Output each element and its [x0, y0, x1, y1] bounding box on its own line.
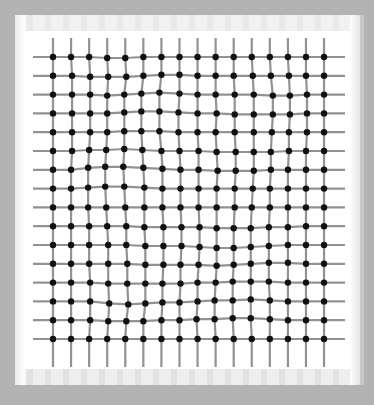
- grid-node: [303, 317, 309, 323]
- grid-node: [268, 149, 274, 155]
- grid-node: [251, 129, 257, 135]
- grid-node: [50, 148, 56, 154]
- grid-node: [266, 260, 272, 266]
- grid-node: [213, 149, 219, 155]
- grid-node: [142, 243, 148, 249]
- grid-node: [304, 129, 310, 135]
- grid-node: [140, 318, 146, 324]
- grid-node: [321, 54, 327, 60]
- grid-node: [321, 91, 327, 97]
- grid-node: [123, 318, 129, 324]
- grid-row-line: [33, 282, 345, 284]
- grid-node: [176, 299, 182, 305]
- grid-node: [303, 223, 309, 229]
- grid-node: [194, 336, 200, 342]
- grid-row-line: [33, 57, 345, 58]
- grid-node: [251, 168, 257, 174]
- grid-node: [178, 243, 184, 249]
- grid-node: [213, 263, 219, 269]
- grid-node: [104, 92, 110, 98]
- grid-node: [231, 245, 237, 251]
- grid-node: [140, 73, 146, 79]
- grid-node: [50, 129, 56, 135]
- grid-node: [321, 185, 327, 191]
- grid-node: [233, 168, 239, 174]
- grid-node: [159, 185, 165, 191]
- grid-node: [121, 183, 127, 189]
- grid-node: [158, 54, 164, 60]
- grid-node: [158, 72, 164, 78]
- grid-node: [303, 204, 309, 210]
- grid-node: [86, 223, 92, 229]
- grid-node: [177, 204, 183, 210]
- grid-node: [50, 336, 56, 342]
- grid-node: [158, 317, 164, 323]
- grid-node: [121, 146, 127, 152]
- grid-node: [104, 55, 110, 61]
- grid-row-line: [33, 111, 345, 114]
- grid-node: [287, 92, 293, 98]
- grid-node: [177, 167, 183, 173]
- grid-node: [68, 336, 74, 342]
- grid-node: [267, 316, 273, 322]
- grid-node: [267, 185, 273, 191]
- grid-column-line: [141, 38, 145, 367]
- grid-node: [104, 336, 110, 342]
- grid-node: [103, 147, 109, 153]
- grid-row-line: [33, 93, 345, 96]
- grid-node: [158, 336, 164, 342]
- grid-node: [176, 72, 182, 78]
- grid-node: [214, 168, 220, 174]
- grid-node: [194, 73, 200, 79]
- grid-node: [68, 298, 74, 304]
- grid-node: [303, 261, 309, 267]
- grid-node: [285, 185, 291, 191]
- grid-node: [248, 278, 254, 284]
- grid-node: [232, 204, 238, 210]
- grid-node: [211, 297, 217, 303]
- grid-node: [266, 278, 272, 284]
- grid-node: [86, 54, 92, 60]
- grid-node: [287, 111, 293, 117]
- grid-node: [138, 108, 144, 114]
- grid-node: [303, 73, 309, 79]
- grid-node: [212, 129, 218, 135]
- grid-node: [267, 204, 273, 210]
- grid-node: [103, 204, 109, 210]
- grid-node: [158, 148, 164, 154]
- grid-column-line: [105, 38, 109, 367]
- grid-node: [212, 336, 218, 342]
- grid-node: [140, 54, 146, 60]
- grid-node: [141, 184, 147, 190]
- grid-node: [250, 185, 256, 191]
- grid-node: [121, 91, 127, 97]
- grid-node: [248, 296, 254, 302]
- grid-node: [68, 242, 74, 248]
- grid-node: [269, 129, 275, 135]
- grid-node: [122, 204, 128, 210]
- grid-node: [232, 129, 238, 135]
- grid-node: [87, 317, 93, 323]
- grid-node: [105, 318, 111, 324]
- grid-node: [156, 128, 162, 134]
- grid-node: [105, 74, 111, 80]
- grid-node: [160, 243, 166, 249]
- grid-node: [231, 262, 237, 268]
- grid-node: [195, 167, 201, 173]
- grid-node: [211, 316, 217, 322]
- grid-node: [321, 110, 327, 116]
- grid-node: [68, 185, 74, 191]
- grid-node: [87, 279, 93, 285]
- grid-node: [156, 108, 162, 114]
- grid-node: [303, 54, 309, 60]
- grid-node: [50, 73, 56, 79]
- grid-node: [68, 317, 74, 323]
- grid-node: [212, 54, 218, 60]
- grid-node: [87, 110, 93, 116]
- grid-node: [303, 148, 309, 154]
- grid-row-line: [33, 131, 345, 132]
- grid-node: [266, 224, 272, 230]
- grid-node: [285, 224, 291, 230]
- grid-node: [286, 148, 292, 154]
- grid-node: [196, 244, 202, 250]
